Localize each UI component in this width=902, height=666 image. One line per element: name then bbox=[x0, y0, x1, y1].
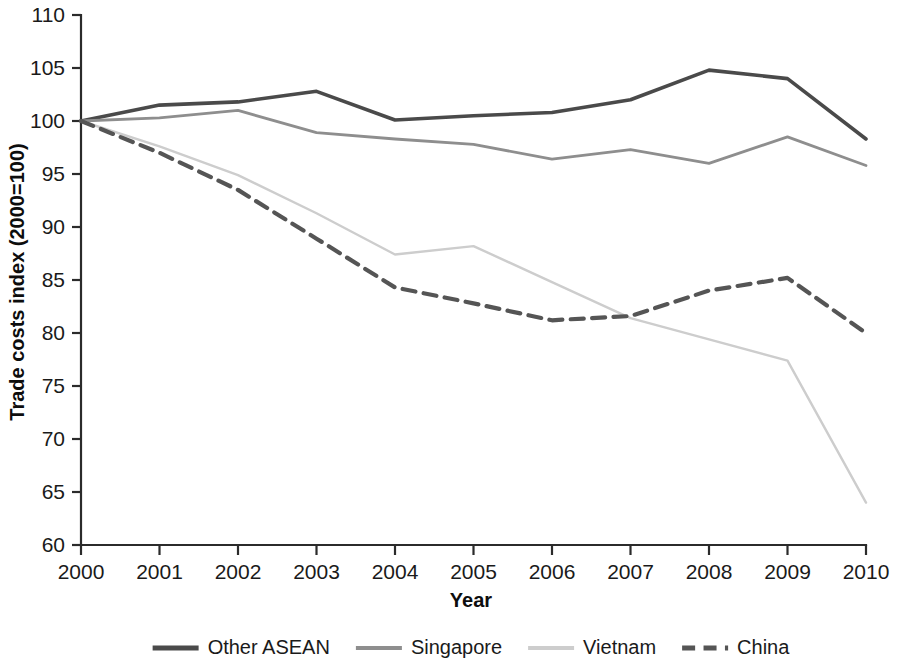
legend-item-china[interactable]: China bbox=[682, 636, 790, 658]
legend-item-singapore[interactable]: Singapore bbox=[356, 636, 502, 658]
axis-lines bbox=[81, 15, 866, 545]
legend-item-other-asean[interactable]: Other ASEAN bbox=[153, 636, 330, 658]
chart-legend: Other ASEANSingaporeVietnamChina bbox=[153, 636, 791, 658]
y-tick-label: 95 bbox=[42, 162, 65, 185]
y-tick-label: 90 bbox=[42, 215, 65, 238]
x-tick-label: 2010 bbox=[843, 560, 890, 583]
legend-label-other-asean: Other ASEAN bbox=[208, 636, 330, 658]
x-tick-label: 2007 bbox=[607, 560, 654, 583]
legend-label-vietnam: Vietnam bbox=[583, 636, 656, 658]
legend-item-vietnam[interactable]: Vietnam bbox=[528, 636, 656, 658]
x-tick-label: 2009 bbox=[764, 560, 811, 583]
series-line-china bbox=[81, 121, 866, 333]
y-tick-label: 80 bbox=[42, 321, 65, 344]
series-line-singapore bbox=[81, 110, 866, 165]
y-tick-label: 75 bbox=[42, 374, 65, 397]
y-tick-label: 60 bbox=[42, 533, 65, 556]
x-axis-title: Year bbox=[450, 589, 492, 611]
y-tick-label: 85 bbox=[42, 268, 65, 291]
y-tick-label: 110 bbox=[32, 3, 65, 26]
y-axis-title: Trade costs index (2000=100) bbox=[6, 143, 28, 420]
chart-axis-titles: Year Trade costs index (2000=100) bbox=[6, 143, 492, 611]
y-tick-label: 100 bbox=[30, 109, 65, 132]
line-chart: 6065707580859095100105110200020012002200… bbox=[0, 0, 902, 666]
chart-axes: 6065707580859095100105110200020012002200… bbox=[30, 3, 889, 583]
x-tick-label: 2006 bbox=[529, 560, 576, 583]
chart-figure: 6065707580859095100105110200020012002200… bbox=[0, 0, 902, 666]
x-tick-label: 2000 bbox=[58, 560, 105, 583]
series-line-vietnam bbox=[81, 121, 866, 503]
legend-label-china: China bbox=[737, 636, 790, 658]
x-tick-label: 2008 bbox=[686, 560, 733, 583]
x-tick-label: 2001 bbox=[136, 560, 183, 583]
series-line-other-asean bbox=[81, 70, 866, 139]
x-tick-label: 2004 bbox=[372, 560, 419, 583]
y-tick-label: 65 bbox=[42, 480, 65, 503]
x-tick-label: 2003 bbox=[293, 560, 340, 583]
x-tick-label: 2005 bbox=[450, 560, 497, 583]
chart-series bbox=[81, 70, 866, 502]
legend-label-singapore: Singapore bbox=[411, 636, 502, 658]
x-tick-label: 2002 bbox=[215, 560, 262, 583]
y-tick-label: 105 bbox=[30, 56, 65, 79]
y-tick-label: 70 bbox=[42, 427, 65, 450]
